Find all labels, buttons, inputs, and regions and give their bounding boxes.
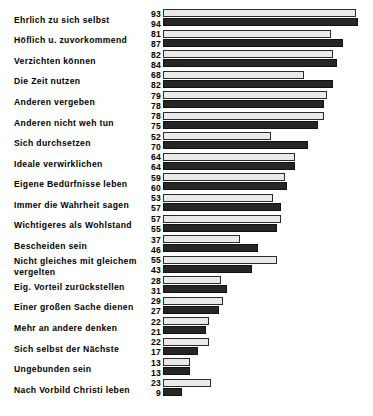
bar-series-a [163, 50, 333, 58]
category-label-line: Bescheiden sein [14, 241, 140, 252]
bar-series-b [163, 100, 324, 108]
value-label-series-a: 81 [126, 29, 161, 39]
bar-series-a [163, 215, 281, 223]
category-label-line: Die Zeit nutzen [14, 76, 140, 87]
bar-series-a [163, 9, 356, 17]
value-label-series-a: 64 [126, 152, 161, 162]
value-label-series-a: 57 [126, 214, 161, 224]
bar-series-b [163, 182, 287, 190]
bar-series-b [163, 244, 258, 252]
bar-series-a [163, 297, 223, 305]
bar-series-b [163, 326, 206, 334]
bar-series-b [163, 306, 219, 314]
value-label-series-a: 78 [126, 111, 161, 121]
bar-series-a [163, 30, 331, 38]
bar-series-b [163, 59, 337, 67]
value-label-series-a: 53 [126, 193, 161, 203]
bar-series-b [163, 265, 252, 273]
bar-series-a [163, 338, 209, 346]
category-label-line: Sich durchsetzen [14, 138, 140, 149]
bar-series-b [163, 80, 333, 88]
bar-series-a [163, 317, 209, 325]
value-label-series-a: 68 [126, 70, 161, 80]
value-label-series-a: 55 [126, 255, 161, 265]
bar-series-b [163, 162, 295, 170]
category-label-line: Eigene Bedürfnisse leben [14, 179, 140, 190]
bar-series-a [163, 379, 211, 387]
value-label-series-a: 52 [126, 132, 161, 142]
bar-series-b [163, 141, 308, 149]
category-label-line: Immer die Wahrheit sagen [14, 200, 140, 211]
category-label-line: Nach Vorbild Christi leben [14, 385, 140, 396]
category-label-line: Eig. Vorteil zurückstellen [14, 282, 140, 293]
bar-series-a [163, 112, 324, 120]
value-label-series-a: 22 [126, 317, 161, 327]
bar-series-a [163, 256, 277, 264]
value-label-series-a: 23 [126, 378, 161, 388]
value-label-series-b: 9 [126, 388, 161, 398]
value-label-series-a: 29 [126, 296, 161, 306]
value-label-series-a: 82 [126, 50, 161, 60]
category-label-line: Sich selbst der Nächste [14, 344, 140, 355]
bar-group [163, 377, 373, 403]
category-label-line: Ehrlich zu sich selbst [14, 15, 140, 26]
bar-series-b [163, 388, 182, 396]
value-label-series-a: 37 [126, 235, 161, 245]
value-label-series-a: 28 [126, 276, 161, 286]
chart-row: Nach Vorbild Christi leben239 [0, 377, 373, 403]
category-label: Nach Vorbild Christi leben [14, 377, 140, 403]
bar-series-b [163, 39, 343, 47]
category-label-line: Verzichten können [14, 56, 140, 67]
horizontal-bar-chart: Ehrlich zu sich selbst9394Höflich u. zuv… [0, 0, 373, 416]
bar-series-a [163, 71, 304, 79]
category-label-line: Höflich u. zuvorkommend [14, 35, 140, 46]
category-label-line: Ungebunden sein [14, 364, 140, 375]
category-label-line: Nicht gleiches mit gleichem [14, 256, 140, 267]
bar-series-a [163, 132, 271, 140]
bar-series-a [163, 153, 295, 161]
bar-series-b [163, 285, 227, 293]
bar-series-b [163, 121, 318, 129]
category-label-line: Anderen nicht weh tun [14, 118, 140, 129]
bar-series-a [163, 91, 327, 99]
bar-series-b [163, 203, 281, 211]
bar-series-b [163, 18, 358, 26]
category-label-line: Wichtigeres als Wohlstand [14, 220, 140, 231]
bar-series-a [163, 194, 273, 202]
value-label-series-a: 93 [126, 9, 161, 19]
bar-series-a [163, 358, 190, 366]
value-labels: 239 [126, 377, 161, 403]
value-label-series-a: 59 [126, 173, 161, 183]
bar-series-b [163, 224, 277, 232]
bar-series-a [163, 276, 221, 284]
value-label-series-a: 22 [126, 337, 161, 347]
bar-series-b [163, 347, 198, 355]
value-label-series-a: 13 [126, 358, 161, 368]
bar-series-a [163, 173, 285, 181]
category-label-line: Ideale verwirklichen [14, 159, 140, 170]
category-label-line: Anderen vergeben [14, 97, 140, 108]
category-label-line: Einer großen Sache dienen [14, 302, 140, 313]
bar-series-b [163, 367, 190, 375]
bar-series-a [163, 235, 240, 243]
category-label-line: Mehr an andere denken [14, 323, 140, 334]
value-label-series-a: 79 [126, 91, 161, 101]
